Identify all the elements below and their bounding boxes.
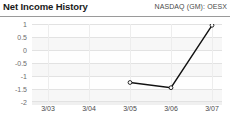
data-point-marker[interactable]: [128, 81, 132, 85]
x-axis-tick-label: 3/07: [205, 105, 219, 112]
chart-plot-wrapper: 10.50-0.5-1-1.5-2 3/033/043/053/063/07: [0, 19, 230, 124]
chart-header: Net Income History NASDAQ (GM): OESX: [0, 0, 230, 17]
y-axis: 10.50-0.5-1-1.5-2: [0, 24, 30, 102]
x-axis-tick-label: 3/05: [123, 105, 137, 112]
y-axis-tick-label: -1: [21, 73, 27, 80]
x-axis-tick-label: 3/03: [41, 105, 55, 112]
x-axis-tick-label: 3/04: [82, 105, 96, 112]
data-series-line: [32, 24, 222, 102]
y-axis-tick-label: 1: [23, 21, 27, 28]
header-divider: [0, 16, 230, 17]
y-axis-tick-label: -0.5: [15, 60, 27, 67]
data-point-marker[interactable]: [210, 24, 214, 27]
ticker-symbol-label: NASDAQ (GM): OESX: [155, 3, 228, 10]
y-axis-tick-label: 0.5: [17, 34, 27, 41]
y-axis-tick-label: -2: [21, 99, 27, 106]
plot-area: [32, 24, 222, 102]
y-axis-tick-label: 0: [23, 47, 27, 54]
page-title: Net Income History: [3, 1, 88, 12]
y-axis-tick-label: -1.5: [15, 86, 27, 93]
x-axis-tick-label: 3/06: [164, 105, 178, 112]
net-income-history-chart-widget: Net Income History NASDAQ (GM): OESX 10.…: [0, 0, 230, 124]
x-axis: 3/033/043/053/063/07: [32, 105, 222, 119]
series-polyline: [130, 25, 212, 87]
data-point-marker[interactable]: [169, 86, 173, 90]
